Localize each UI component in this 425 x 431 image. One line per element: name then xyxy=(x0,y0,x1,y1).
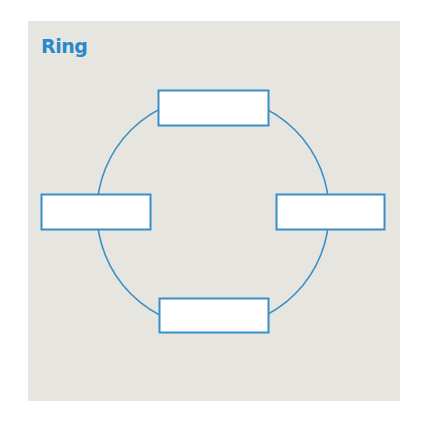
ring-node-top xyxy=(159,91,269,126)
ring-node-bottom xyxy=(160,299,269,333)
ring-node-left xyxy=(42,195,151,230)
ring-node-right xyxy=(277,195,385,230)
ring-diagram xyxy=(0,0,425,431)
